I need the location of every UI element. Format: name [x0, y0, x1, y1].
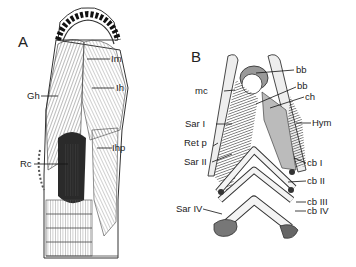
label-ch: ch — [305, 92, 315, 102]
label-cb-iv: cb IV — [307, 206, 329, 216]
label-rc: Rc — [20, 159, 32, 169]
panel-b-drawing — [208, 55, 306, 239]
label-bb-lower: bb — [297, 81, 308, 91]
panel-label-a: A — [18, 34, 28, 50]
label-cb-ii: cb II — [307, 176, 325, 186]
label-cb-i: cb I — [307, 158, 322, 168]
panel-a-drawing — [39, 8, 128, 258]
label-sar-ii: Sar II — [184, 157, 207, 167]
label-bb-upper: bb — [296, 65, 307, 75]
label-ihp: Ihp — [112, 143, 125, 153]
label-hym: Hym — [312, 118, 332, 128]
label-sar-i: Sar I — [185, 119, 205, 129]
panel-label-b: B — [191, 49, 201, 65]
anatomical-figure — [0, 0, 356, 267]
label-ret-p: Ret p — [184, 138, 207, 148]
label-mc: mc — [195, 86, 208, 96]
label-sar-iv: Sar IV — [176, 204, 202, 214]
label-ih: Ih — [116, 83, 124, 93]
label-im: Im — [111, 54, 122, 64]
label-gh: Gh — [27, 91, 40, 101]
